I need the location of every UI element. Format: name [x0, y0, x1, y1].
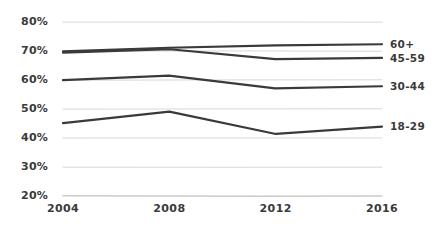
y-axis-tick-label: 30%: [8, 160, 48, 173]
y-axis-tick-label: 80%: [8, 15, 48, 28]
series-group: [63, 44, 382, 134]
series-label-30-44: 30-44: [390, 80, 425, 92]
x-axis-tick-label: 2004: [38, 202, 88, 215]
x-axis-tick-label: 2008: [144, 202, 194, 215]
y-axis-tick-label: 50%: [8, 102, 48, 115]
y-axis-tick-label: 70%: [8, 44, 48, 57]
x-axis-tick-label: 2016: [357, 202, 407, 215]
chart-canvas: [0, 0, 443, 236]
series-line-30-44: [63, 76, 382, 89]
gridlines: [63, 22, 382, 196]
series-line-18-29: [63, 112, 382, 134]
y-axis-tick-label: 60%: [8, 73, 48, 86]
y-axis-tick-label: 20%: [8, 189, 48, 202]
y-axis-tick-label: 40%: [8, 131, 48, 144]
line-chart: 80%70%60%50%40%30%20%200420082012201660+…: [0, 0, 443, 236]
series-label-18-29: 18-29: [390, 120, 425, 132]
series-label-60plus: 60+: [390, 38, 414, 50]
series-label-45-59: 45-59: [390, 52, 425, 64]
x-axis-tick-label: 2012: [251, 202, 301, 215]
